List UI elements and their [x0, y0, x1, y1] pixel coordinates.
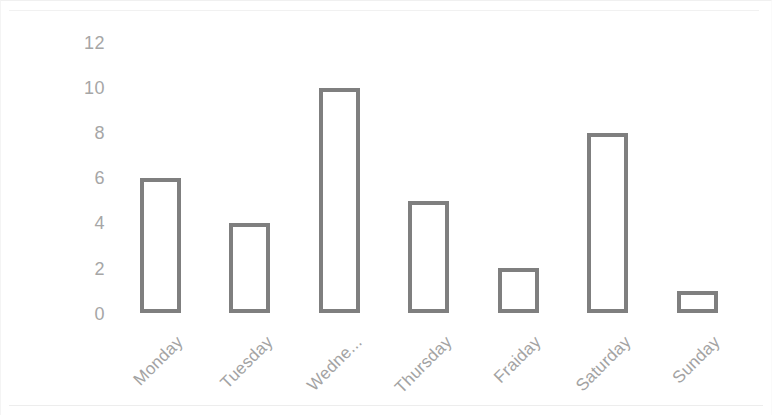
x-axis-category-label: Sunday [626, 333, 723, 415]
bar [498, 268, 539, 313]
y-tick-label: 6 [5, 169, 105, 187]
bar [587, 133, 628, 313]
bar-baseline-segment [587, 309, 628, 313]
y-tick-label: 10 [5, 79, 105, 97]
y-axis: 12 10 8 6 4 2 0 [1, 1, 105, 415]
y-tick-label: 0 [5, 305, 105, 323]
x-axis-category-label: Thursday [358, 333, 455, 415]
bar-baseline-segment [229, 309, 270, 313]
bar-chart: 12 10 8 6 4 2 0 MondayTuesdayWedne...Thu… [0, 0, 772, 415]
y-tick-label: 8 [5, 124, 105, 142]
y-tick-label: 12 [5, 34, 105, 52]
bar-baseline-segment [319, 309, 360, 313]
bar-baseline-segment [408, 309, 449, 313]
bar [408, 201, 449, 314]
bar [140, 178, 181, 313]
x-axis-category-label: Tuesday [179, 333, 276, 415]
y-tick-label: 4 [5, 214, 105, 232]
plot-area: MondayTuesdayWedne...ThursdayFraidaySatu… [105, 1, 772, 415]
x-axis-category-label: Wedne... [268, 333, 365, 415]
bar-baseline-segment [498, 309, 539, 313]
bar-baseline-segment [677, 309, 718, 313]
x-axis-category-label: Fraiday [447, 333, 544, 415]
y-tick-label: 2 [5, 260, 105, 278]
bar [229, 223, 270, 313]
bar [319, 88, 360, 313]
bar-baseline-segment [140, 309, 181, 313]
x-axis-category-label: Saturday [537, 333, 634, 415]
